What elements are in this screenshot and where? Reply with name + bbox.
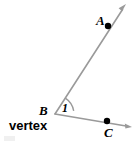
point-label-a: A bbox=[96, 14, 105, 27]
ray-ba-arrowhead bbox=[119, 4, 126, 11]
vertex-caption: vertex bbox=[9, 119, 47, 132]
angle-label-1: 1 bbox=[62, 102, 68, 114]
point-dot-a bbox=[105, 23, 111, 29]
ray-ba-line bbox=[55, 10, 123, 115]
ray-ba bbox=[55, 4, 126, 114]
point-label-c: C bbox=[104, 126, 113, 139]
geometry-figure: A B C 1 vertex bbox=[0, 0, 137, 142]
point-dot-c bbox=[104, 118, 110, 124]
point-label-b: B bbox=[39, 104, 48, 117]
ray-bc bbox=[55, 114, 132, 129]
ray-bc-arrowhead bbox=[125, 123, 132, 128]
scan-artifact bbox=[4, 136, 15, 141]
ray-bc-line bbox=[55, 114, 128, 126]
